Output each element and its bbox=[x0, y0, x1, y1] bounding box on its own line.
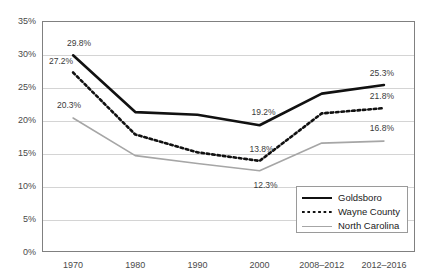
series-line-wayne-county bbox=[73, 72, 384, 160]
legend-label-north-carolina: North Carolina bbox=[338, 221, 399, 231]
legend-swatch-dotted-black-icon bbox=[302, 207, 332, 217]
data-label-north-carolina-1970: 20.3% bbox=[57, 100, 81, 110]
legend-swatch-solid-gray-icon bbox=[302, 221, 332, 231]
data-label-goldsboro-2012-2016: 25.3% bbox=[370, 68, 394, 78]
chart-legend[interactable]: Goldsboro Wayne County North Carolina bbox=[296, 186, 408, 233]
poverty-rate-line-chart: 0%5%10%15%20%25%30%35% 19701980199020002… bbox=[0, 0, 429, 280]
data-label-north-carolina-2000: 12.3% bbox=[254, 180, 278, 190]
data-label-wayne-county-2012-2016: 21.8% bbox=[370, 91, 394, 101]
legend-swatch-solid-black-icon bbox=[302, 193, 332, 203]
data-label-north-carolina-2012-2016: 16.8% bbox=[370, 123, 394, 133]
legend-item-goldsboro[interactable]: Goldsboro bbox=[302, 191, 402, 205]
legend-item-north-carolina[interactable]: North Carolina bbox=[302, 219, 402, 233]
series-lines bbox=[0, 0, 429, 280]
data-label-goldsboro-1970: 29.8% bbox=[67, 38, 91, 48]
legend-label-goldsboro: Goldsboro bbox=[338, 193, 382, 203]
data-label-wayne-county-2000: 13.8% bbox=[250, 144, 274, 154]
legend-item-wayne-county[interactable]: Wayne County bbox=[302, 205, 402, 219]
data-label-wayne-county-1970: 27.2% bbox=[49, 56, 73, 66]
data-label-goldsboro-2000: 19.2% bbox=[252, 107, 276, 117]
legend-label-wayne-county: Wayne County bbox=[338, 207, 400, 217]
series-line-north-carolina bbox=[73, 118, 384, 171]
series-line-goldsboro bbox=[73, 55, 384, 125]
